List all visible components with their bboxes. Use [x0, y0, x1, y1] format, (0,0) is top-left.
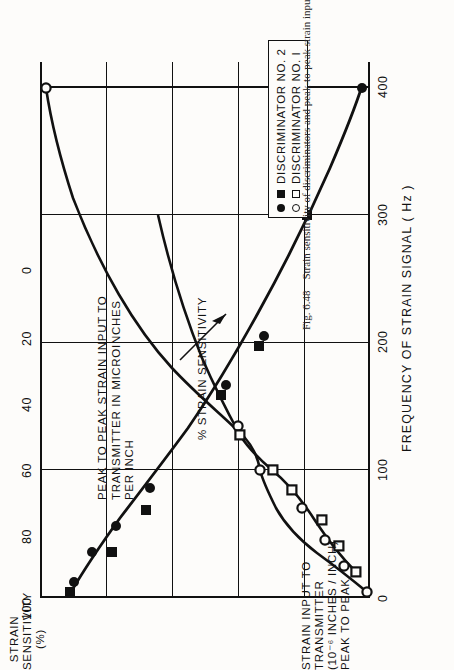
xtick-200: 200 — [376, 330, 390, 353]
rotated-figure-stage: 0 100 200 300 400 FREQUENCY OF STRAIN SI… — [0, 0, 454, 670]
y-left-title-line1: STRAIN — [8, 608, 21, 670]
strain-input-annotation: PEAK TO PEAK STRAIN INPUT TO TRANSMITTER… — [96, 295, 137, 500]
y-right-title-line2: TRANSMITTER — [313, 606, 326, 670]
figure-page: 0 100 200 300 400 FREQUENCY OF STRAIN SI… — [0, 0, 454, 670]
annotation-arrow-head — [212, 314, 226, 324]
open-square-icon — [292, 190, 300, 198]
yleft-tick-80: 80 — [20, 529, 34, 544]
sensitivity-inline-label: % STRAIN SENSITIVITY — [196, 297, 210, 440]
y-right-title-line1: STRAIN INPUT TO — [300, 606, 313, 670]
yleft-tick-20: 20 — [20, 331, 34, 346]
y-left-title-line3: (%) — [34, 608, 47, 670]
strain-input-annotation-line1: PEAK TO PEAK STRAIN INPUT TO — [96, 295, 110, 500]
filled-square-icon — [277, 190, 285, 198]
yleft-tick-0: 0 — [20, 266, 34, 274]
filled-circle-icon — [277, 204, 285, 212]
y-right-title-line4: PEAK TO PEAK — [339, 606, 352, 670]
figure-caption: Fig. 6.48 Strain sensitivity of discrimi… — [300, 0, 312, 330]
legend-label-discriminator-2: DISCRIMINATOR NO. 2 — [275, 48, 287, 184]
x-axis-title: FREQUENCY OF STRAIN SIGNAL ( Hz ) — [400, 184, 414, 452]
open-circle-icon — [292, 204, 300, 212]
yleft-tick-40: 40 — [20, 397, 34, 412]
figure-caption-text: Strain sensitivity of discriminators and… — [300, 0, 312, 280]
xtick-100: 100 — [376, 458, 390, 481]
y-right-title-line3: (10⁻⁶ INCHES / INCH) — [326, 606, 339, 670]
xtick-400: 400 — [376, 75, 390, 98]
figure-caption-number: Fig. 6.48 — [300, 291, 312, 330]
y-left-axis-title: STRAIN SENSITIVITY (%) — [8, 608, 47, 670]
y-left-title-line2: SENSITIVITY — [21, 608, 34, 670]
legend-row-discriminator-2: DISCRIMINATOR NO. 2 — [273, 48, 288, 212]
xtick-0: 0 — [376, 594, 390, 602]
xtick-300: 300 — [376, 203, 390, 226]
strain-input-annotation-line3: PER INCH — [123, 295, 137, 500]
yleft-tick-60: 60 — [20, 463, 34, 478]
y-right-axis-title: STRAIN INPUT TO TRANSMITTER (10⁻⁶ INCHES… — [300, 606, 352, 670]
strain-input-annotation-line2: TRANSMITTER IN MICROINCHES — [110, 295, 124, 500]
